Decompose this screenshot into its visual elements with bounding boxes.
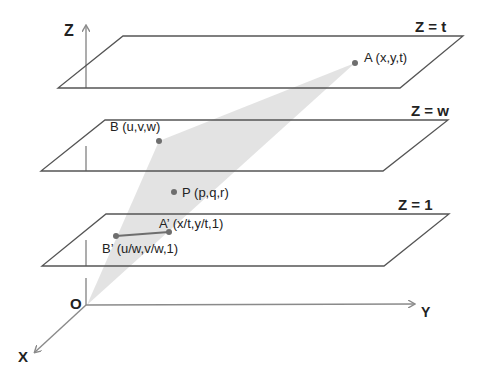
point-p [171, 189, 177, 195]
projection-triangle [87, 63, 355, 305]
x-axis-label: X [18, 348, 28, 365]
point-b-prime-label: B’ (u/w,v/w,1) [102, 241, 178, 256]
x-axis [35, 305, 86, 352]
plane-z-1-label: Z = 1 [398, 196, 433, 213]
point-a-label: A (x,y,t) [364, 50, 407, 65]
z-axis-label: Z [64, 22, 74, 39]
point-b [156, 138, 162, 144]
plane-z-t-label: Z = t [415, 18, 446, 35]
point-b-prime [113, 233, 119, 239]
point-b-label: B (u,v,w) [110, 119, 160, 134]
point-a-prime-label: A’ (x/t,y/t,1) [159, 216, 223, 231]
projection-diagram: Z Y X O Z = t Z = w Z = 1 A (x,y,t) B (u… [0, 0, 485, 381]
y-axis-label: Y [421, 304, 431, 320]
plane-z-1 [42, 214, 449, 266]
origin-label: O [70, 295, 82, 312]
point-a [352, 60, 358, 66]
y-axis [86, 304, 414, 305]
point-p-label: P (p,q,r) [182, 185, 229, 200]
plane-z-w-label: Z = w [411, 102, 449, 119]
